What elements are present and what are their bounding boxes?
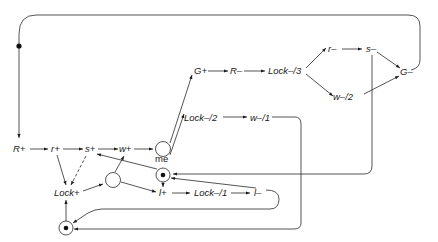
signal-transition-diagram: R+ r+ s+ w+ G+ R– Lock–/3 r– s– w–/2 G– … <box>0 0 438 242</box>
node-r-plus: r+ <box>51 143 60 154</box>
node-w-minus-1: w–/1 <box>250 112 270 123</box>
node-R-minus: R– <box>230 65 243 76</box>
node-Lock-minus-2: Lock–/2 <box>184 112 218 123</box>
node-R-plus: R+ <box>13 143 26 154</box>
node-l-minus: l– <box>254 187 262 198</box>
edge-wminus2-Gminus <box>364 76 399 94</box>
edge-me-splus <box>97 154 157 169</box>
edge-merge-wplus <box>115 156 124 172</box>
edge-Lockplus-merge <box>83 184 103 191</box>
node-G-minus: G– <box>400 66 413 77</box>
edge-merge-lplus <box>121 182 156 192</box>
me-label: me <box>155 153 168 164</box>
edge-splus-Lockplus <box>71 156 86 185</box>
edge-Lock3-rminus <box>306 48 326 68</box>
edge-Gminus-to-Rplus-loop <box>19 15 420 138</box>
node-r-minus: r– <box>328 43 337 54</box>
node-Lock-plus: Lock+ <box>54 187 80 198</box>
edge-Lock3-wminus2 <box>306 74 333 96</box>
edge-lminus-bottom <box>73 190 279 223</box>
edge-wminus1-bottom <box>74 117 301 229</box>
bottom-token-icon <box>64 226 69 231</box>
me-token-icon <box>161 173 166 178</box>
node-s-plus: s+ <box>85 143 96 154</box>
edge-rplus-Lockplus <box>57 155 66 185</box>
node-w-plus: w+ <box>119 143 132 154</box>
node-Lock-minus-1: Lock–/1 <box>194 187 227 198</box>
edge-choice-Gplus <box>170 75 192 143</box>
edge-sminus-Gminus <box>377 52 400 68</box>
node-Lock-minus-3: Lock–/3 <box>268 65 302 76</box>
node-s-minus: s– <box>366 43 377 54</box>
merge-place <box>106 173 121 188</box>
node-w-minus-2: w–/2 <box>333 91 354 102</box>
node-l-plus: l+ <box>159 187 167 198</box>
node-G-plus: G+ <box>194 65 207 76</box>
loop-token-icon <box>16 43 21 48</box>
